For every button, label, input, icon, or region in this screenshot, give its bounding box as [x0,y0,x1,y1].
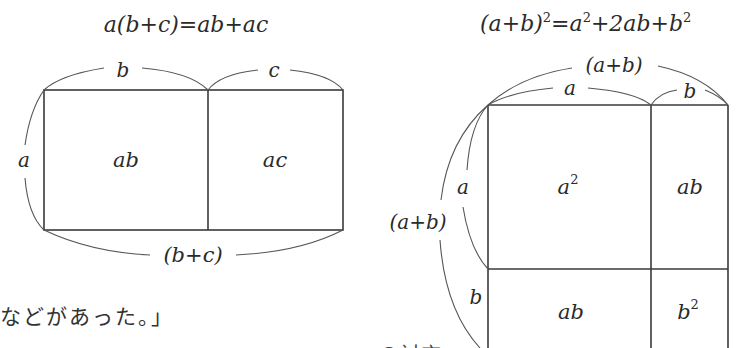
right-diagram: (a+b)2=a2+2ab+b2 (a+b) a b a b (a+b) a2 [389,10,728,348]
label-side-b: b [470,285,483,309]
cell-b-squared: b2 [677,297,699,324]
label-top-b: b [684,79,697,103]
formula-eq: = [551,11,569,36]
brace-a-bottom [25,178,44,230]
cell-ac: ac [263,148,288,172]
label-side-a: a [457,175,469,199]
formula-t1-exp: 2 [583,10,591,25]
left-diagram: a(b+c)=ab+ac b c a (b+c) ab ac [18,12,343,267]
brace-top-b-left [651,90,677,105]
brace-bc-left [44,230,150,255]
brace-bc-right [236,230,343,255]
cell-top-ab: ab [677,175,703,199]
label-b: b [117,58,130,82]
left-formula: a(b+c)=ab+ac [104,12,269,37]
label-a: a [18,148,30,172]
formula-lhs: (a+b) [480,11,543,36]
cell-ab: ab [113,148,139,172]
brace-top-a-right [588,88,651,105]
cell-a-squared: a2 [558,172,579,199]
label-c: c [268,58,279,82]
label-side-a-plus-b: (a+b) [389,210,446,234]
brace-side-a-bottom [463,207,488,269]
formula-t2: +2ab+ [591,11,669,36]
caption-text: などがあった。」 [0,300,174,330]
formula-lhs-exp: 2 [543,10,551,25]
cell-bottom-ab: ab [558,300,584,324]
brace-b-right [142,68,208,90]
label-top-a: a [564,76,576,100]
right-formula: (a+b)2=a2+2ab+b2 [480,10,691,36]
left-rectangle [44,90,343,230]
brace-b-left [44,68,104,90]
label-top-a-plus-b: (a+b) [585,53,642,77]
label-b-plus-c: (b+c) [163,243,222,267]
formula-t3-exp: 2 [683,10,691,25]
diagram-canvas: a(b+c)=ab+ac b c a (b+c) ab ac (a+b)2=a2… [0,0,736,348]
caption-cut-text: の対応 [0,338,441,348]
brace-c-right [290,70,343,90]
formula-t1: a [570,11,583,36]
brace-c-left [208,70,258,90]
brace-a-top [25,90,44,145]
diagram-page: a(b+c)=ab+ac b c a (b+c) ab ac (a+b)2=a2… [0,0,736,348]
formula-t3: b [669,11,683,36]
